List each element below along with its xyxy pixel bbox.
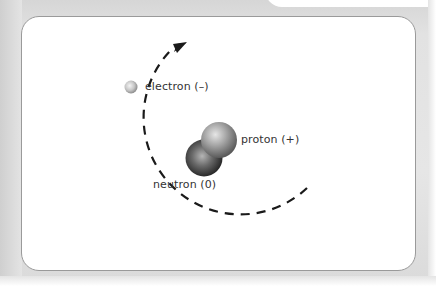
proton-label: proton (+) xyxy=(241,133,299,146)
electron-label: electron (–) xyxy=(145,80,209,93)
orbit-arrow-head xyxy=(173,42,187,53)
atom-diagram xyxy=(0,0,436,286)
neutron-label: neutron (0) xyxy=(153,178,216,191)
electron-particle xyxy=(125,81,138,94)
proton-particle xyxy=(201,122,237,158)
